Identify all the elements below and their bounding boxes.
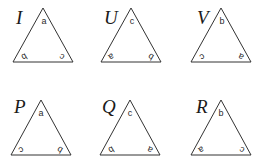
corner-label-top: c [127, 17, 137, 26]
corner-label-top: a [39, 17, 49, 26]
triangle-panel-q: Q c b a [87, 85, 174, 167]
triangle-panel-r: R b a c [174, 85, 261, 167]
corner-label-top: c [125, 109, 135, 118]
triangle-panel-p: P a c b [0, 85, 87, 167]
triangle-shape [87, 85, 174, 167]
triangle-shape [0, 0, 87, 83]
triangle-shape [87, 0, 174, 83]
triangle-panel-i: I a b c [0, 0, 87, 83]
corner-label-top: a [36, 109, 46, 118]
triangle-panel-v: V b c a [174, 0, 261, 83]
corner-label-top: b [216, 109, 226, 118]
corner-label-top: b [217, 17, 227, 26]
triangle-shape [174, 85, 261, 167]
triangle-shape [174, 0, 261, 83]
triangle-panel-u: U c a b [87, 0, 174, 83]
triangle-shape [0, 85, 87, 167]
